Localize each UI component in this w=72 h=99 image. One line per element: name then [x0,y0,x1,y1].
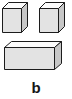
cube-right-side-face [59,3,65,33]
panel-label: b [0,80,72,96]
cube-right [40,3,65,33]
cube-right-front-face [40,9,59,33]
box-wide-front-face [5,48,55,70]
cube-left-front-face [3,9,22,33]
box-wide [5,42,62,70]
figure-panel-b: b [0,0,72,99]
box-wide-top-face [5,42,62,48]
cube-left [3,3,28,33]
cube-left-side-face [22,3,28,33]
